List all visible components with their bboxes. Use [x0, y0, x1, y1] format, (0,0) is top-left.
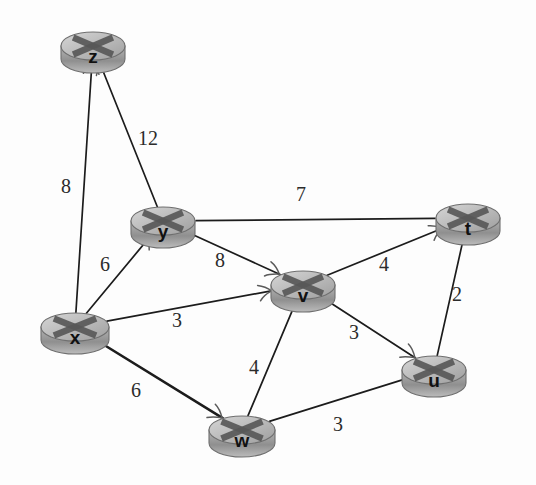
graph-canvas: zyxvtuw 8126783423463 [0, 0, 536, 485]
node-label-y: y [158, 221, 169, 242]
edge-x-z [76, 61, 92, 313]
node-y[interactable]: y [131, 207, 195, 248]
node-label-v: v [298, 285, 309, 306]
edge-x-v [107, 291, 273, 322]
node-w[interactable]: w [209, 416, 275, 457]
edge-weight-labels-layer: 8126783423463 [61, 127, 462, 435]
network-diagram: zyxvtuw 8126783423463 [0, 0, 536, 485]
edge-weight-t-u: 2 [452, 283, 462, 305]
edge-x-w [95, 339, 223, 418]
edge-weight-x-y: 6 [100, 253, 110, 275]
edge-y-t [196, 218, 435, 220]
node-x[interactable]: x [41, 313, 109, 354]
node-label-x: x [70, 327, 81, 348]
edge-weight-x-v: 3 [172, 309, 182, 331]
edge-weight-v-u: 3 [349, 321, 359, 343]
nodes-layer: zyxvtuw [41, 32, 500, 457]
edge-weight-x-z: 8 [61, 175, 71, 197]
edge-weight-w-u: 3 [333, 413, 343, 435]
edge-x-y [86, 235, 151, 314]
node-v[interactable]: v [271, 271, 335, 312]
edge-v-u [322, 297, 416, 358]
edge-weight-x-w: 6 [131, 379, 141, 401]
node-label-t: t [465, 218, 472, 239]
edge-weight-y-z: 12 [138, 127, 158, 149]
node-u[interactable]: u [402, 356, 466, 397]
edge-weight-y-v: 8 [215, 249, 225, 271]
edge-weight-y-t: 7 [296, 183, 306, 205]
node-label-u: u [428, 370, 440, 391]
node-t[interactable]: t [436, 204, 500, 245]
edge-y-v [186, 232, 280, 275]
node-label-z: z [88, 46, 98, 67]
edge-weight-v-t: 4 [379, 253, 389, 275]
node-label-w: w [234, 430, 250, 451]
edge-weight-v-w: 4 [249, 356, 259, 378]
node-z[interactable]: z [61, 32, 125, 73]
